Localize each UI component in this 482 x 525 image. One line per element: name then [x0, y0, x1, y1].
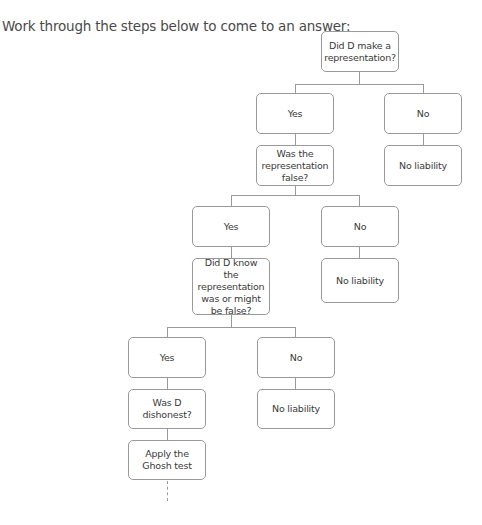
answer-label: Yes: [160, 352, 175, 364]
connector: [423, 84, 424, 93]
connector: [359, 247, 360, 258]
answer-label: Yes: [224, 221, 239, 233]
step-text: Apply the Ghosh test: [133, 448, 201, 472]
answer-label: No: [354, 221, 367, 233]
result-text: No liability: [336, 275, 384, 287]
result-no-liability: No liability: [384, 145, 462, 186]
connector: [231, 195, 232, 206]
question-text: Was D dishonest?: [133, 397, 201, 421]
connector: [167, 429, 168, 440]
answer-yes: Yes: [128, 337, 206, 378]
question-text: Did D make a representation?: [324, 40, 396, 64]
result-text: No liability: [272, 403, 320, 415]
answer-label: No: [417, 108, 430, 120]
connector: [295, 327, 296, 337]
answer-label: No: [290, 352, 303, 364]
answer-yes: Yes: [256, 93, 334, 134]
connector: [295, 84, 296, 93]
question-text: Did D know the representation was or mig…: [197, 257, 265, 317]
question-dishonest: Was D dishonest?: [128, 389, 206, 429]
continuation-dashed-line: [167, 481, 168, 501]
connector: [167, 378, 168, 389]
answer-no: No: [257, 337, 335, 378]
connector: [295, 186, 296, 195]
answer-no: No: [321, 206, 399, 247]
connector: [167, 327, 168, 337]
result-text: No liability: [399, 160, 447, 172]
connector: [359, 195, 360, 206]
connector: [295, 378, 296, 389]
answer-yes: Yes: [192, 206, 270, 247]
answer-no: No: [384, 93, 462, 134]
result-no-liability: No liability: [321, 258, 399, 303]
intro-text: Work through the steps below to come to …: [2, 18, 350, 34]
question-made-representation: Did D make a representation?: [321, 31, 399, 72]
question-knew-false: Did D know the representation was or mig…: [192, 258, 270, 315]
connector: [295, 84, 424, 85]
connector: [231, 195, 360, 196]
connector: [231, 315, 232, 327]
connector: [167, 327, 296, 328]
question-text: Was the representation false?: [261, 148, 329, 184]
connector: [295, 134, 296, 145]
result-no-liability: No liability: [257, 389, 335, 429]
connector: [423, 134, 424, 145]
question-representation-false: Was the representation false?: [256, 145, 334, 186]
connector: [359, 72, 360, 84]
step-ghosh-test: Apply the Ghosh test: [128, 440, 206, 480]
answer-label: Yes: [288, 108, 303, 120]
